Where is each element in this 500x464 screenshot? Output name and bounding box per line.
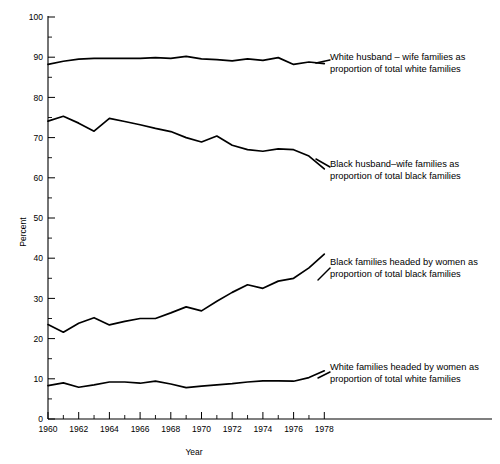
series-line-black-husband-wife [48,116,324,169]
annotation-white-husband-wife-line1: White husband – wife families as [330,52,466,62]
annotation-white-women-line2: proportion of total white families [330,374,461,384]
x-axis-title: Year [185,447,202,457]
y-tick-label: 70 [34,133,44,143]
x-tick-label: 1962 [69,424,88,434]
x-tick-label: 1978 [315,424,334,434]
series-line-white-women [48,371,324,388]
axis-ticks [48,17,324,419]
axes [48,16,492,419]
x-tick-label: 1966 [131,424,150,434]
x-tick-label: 1972 [223,424,242,434]
y-tick-label: 0 [38,414,43,424]
annotation-white-women-line1: White families headed by women as [330,362,479,372]
data-series [48,56,324,387]
y-tick-label: 10 [34,374,44,384]
x-tick-label: 1960 [39,424,58,434]
y-tick-label: 60 [34,173,44,183]
y-tick-label: 50 [34,213,44,223]
y-tick-label: 90 [34,52,44,62]
x-tick-label: 1964 [100,424,119,434]
annotation-white-husband-wife-line2: proportion of total white families [330,64,461,74]
x-tick-label: 1976 [284,424,303,434]
annotation-black-women-line1: Black families headed by women as [330,257,478,267]
y-tick-label: 100 [29,12,43,22]
series-line-black-women [48,254,324,332]
y-tick-label: 20 [34,334,44,344]
x-tick-label: 1968 [161,424,180,434]
chart-container: 0102030405060708090100196019621964196619… [0,0,500,464]
leader-line-white-husband-wife [316,60,330,63]
y-tick-label: 30 [34,294,44,304]
annotation-black-husband-wife-line1: Black husband–wife families as [330,159,460,169]
y-axis-title: Percent [18,217,28,247]
line-chart: 0102030405060708090100196019621964196619… [0,0,500,464]
axis-tick-labels: 0102030405060708090100196019621964196619… [29,12,334,434]
y-tick-label: 80 [34,93,44,103]
x-tick-label: 1970 [192,424,211,434]
series-annotations: White husband – wife families asproporti… [316,52,479,384]
y-tick-label: 40 [34,253,44,263]
series-line-white-husband-wife [48,56,324,64]
x-tick-label: 1974 [253,424,272,434]
annotation-black-women-line2: proportion of total black families [330,269,461,279]
leader-line-black-women [318,268,330,280]
annotation-black-husband-wife-line2: proportion of total black families [330,171,461,181]
